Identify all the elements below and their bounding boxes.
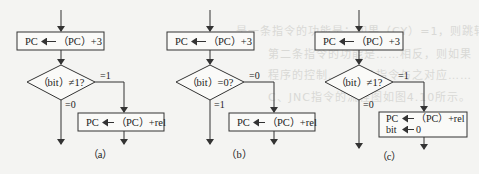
step-box-right: （PC）+3 xyxy=(58,36,102,47)
decision-text: （bit）≠1? xyxy=(336,77,383,88)
decision-text: （bit）≠1? xyxy=(38,77,85,88)
decision-diamond: （bit）≠1? xyxy=(325,65,393,100)
diagram-a: PC （PC）+3 （bit）≠1? =1 =0 PC （PC）+rel （a） xyxy=(17,10,166,160)
jump-box: PC （PC）+rel xyxy=(78,113,166,131)
step-box: PC （PC）+3 xyxy=(167,32,254,50)
branch-down-label: =0 xyxy=(363,99,374,110)
jump-box-line2-right: 0 xyxy=(416,124,421,135)
step-box: PC （PC）+3 xyxy=(17,32,104,50)
jump-box-left: PC xyxy=(86,117,99,128)
branch-down-label: =0 xyxy=(65,99,76,110)
step-box-left: PC xyxy=(25,36,38,47)
step-box-right: （PC）+3 xyxy=(208,36,252,47)
branch-right-arrow xyxy=(244,82,274,112)
decision-diamond: （bit）=0? xyxy=(176,65,244,100)
step-box: PC （PC）+3 xyxy=(315,32,403,50)
step-box-left: PC xyxy=(323,36,336,47)
branch-down-label: =1 xyxy=(214,99,225,110)
branch-right-label: =0 xyxy=(249,70,260,81)
caption-c: （c） xyxy=(377,151,402,162)
jump-box-right: （PC）+rel xyxy=(116,117,166,128)
step-box-left: PC xyxy=(175,36,188,47)
jump-box-right: （PC）+rel xyxy=(267,117,317,128)
jump-box-line1-right: （PC）+rel xyxy=(416,113,465,124)
jump-box: PC （PC）+rel bit 0 xyxy=(379,112,467,137)
branch-right-arrow xyxy=(95,82,124,112)
jump-box-line1-left: PC xyxy=(386,113,399,124)
decision-text: （bit）=0? xyxy=(187,77,234,88)
branch-right-arrow xyxy=(393,82,424,111)
caption-a: （a） xyxy=(88,149,113,160)
step-box-right: （PC）+3 xyxy=(356,36,400,47)
decision-diamond: （bit）≠1? xyxy=(27,65,95,100)
jump-box-line2-left: bit xyxy=(386,124,397,135)
branch-right-label: =1 xyxy=(398,70,409,81)
jump-box: PC （PC）+rel xyxy=(229,113,317,131)
diagram-b: PC （PC）+3 （bit）=0? =0 =1 PC （PC）+rel （b） xyxy=(167,10,317,160)
diagram-c: PC （PC）+3 （bit）≠1? =1 =0 PC （PC）+rel bit… xyxy=(315,10,467,162)
caption-b: （b） xyxy=(226,149,251,160)
flowchart-figure: 是一条指令的功能是：如果（CY）=1，则跳转到目标地址去执行，否则 第二条指令的… xyxy=(0,0,479,174)
jump-box-left: PC xyxy=(237,117,250,128)
branch-right-label: =1 xyxy=(100,70,111,81)
